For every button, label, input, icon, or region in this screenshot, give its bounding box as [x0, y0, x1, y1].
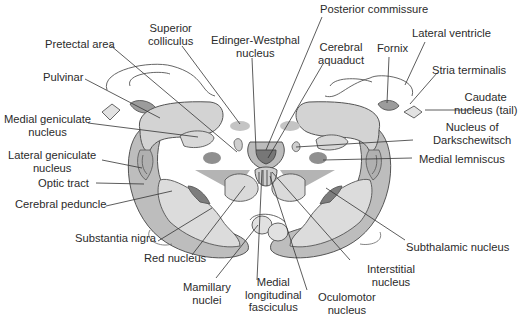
label-subthalamic-nucleus: Subthalamic nucleus: [406, 241, 509, 254]
label-medial-lemniscus: Medial lemniscus: [419, 153, 505, 166]
label-optic-tract: Optic tract: [38, 177, 89, 190]
right-superior-colliculus: [280, 121, 300, 131]
label-pretectal-area: Pretectal area: [45, 38, 115, 51]
right-mamillary: [268, 223, 288, 241]
right-medial-lemniscus: [309, 152, 327, 164]
label-interstitial-nucleus: Interstitial nucleus: [367, 263, 415, 288]
label-medial-longitudinal-fasciculus: Medial longitudinal fasciculus: [245, 276, 302, 314]
left-pulvinar: [139, 102, 223, 152]
label-edinger-westphal: Edinger-Westphal nucleus: [211, 34, 300, 59]
right-upper-outline: [325, 76, 413, 97]
left-red-nucleus: [225, 174, 258, 201]
midbrain-diagram: Posterior commissure Superior colliculus…: [0, 0, 519, 319]
left-medial-lemniscus: [203, 152, 221, 164]
label-stria-terminalis: Stria terminalis: [432, 64, 506, 77]
label-substantia-nigra: Substantia nigra: [75, 232, 156, 245]
right-medial-geniculate: [316, 135, 348, 150]
label-nucleus-darkschewitsch: Nucleus of Darkschewitsch: [433, 121, 511, 146]
label-superior-colliculus: Superior colliculus: [148, 22, 193, 47]
label-posterior-commissure: Posterior commissure: [320, 3, 428, 16]
label-mamillary-nuclei: Mamillary nuclei: [183, 281, 231, 306]
label-caudate-nucleus-tail: Caudate nucleus (tail): [454, 91, 517, 116]
label-pulvinar: Pulvinar: [43, 71, 83, 84]
label-lateral-ventricle: Lateral ventricle: [412, 27, 491, 40]
left-medial-geniculate: [180, 131, 214, 148]
label-cerebral-aquaduct: Cerebral aquaduct: [318, 41, 364, 66]
label-oculomotor-nucleus: Oculomotor nucleus: [318, 291, 376, 316]
label-fornix: Fornix: [377, 42, 408, 55]
label-red-nucleus: Red nucleus: [144, 252, 206, 265]
label-cerebral-peduncle: Cerebral peduncle: [15, 198, 106, 211]
label-lateral-geniculate: Lateral geniculate nucleus: [8, 149, 96, 174]
left-superior-colliculus: [230, 121, 250, 131]
label-medial-geniculate: Medial geniculate nucleus: [4, 113, 91, 138]
